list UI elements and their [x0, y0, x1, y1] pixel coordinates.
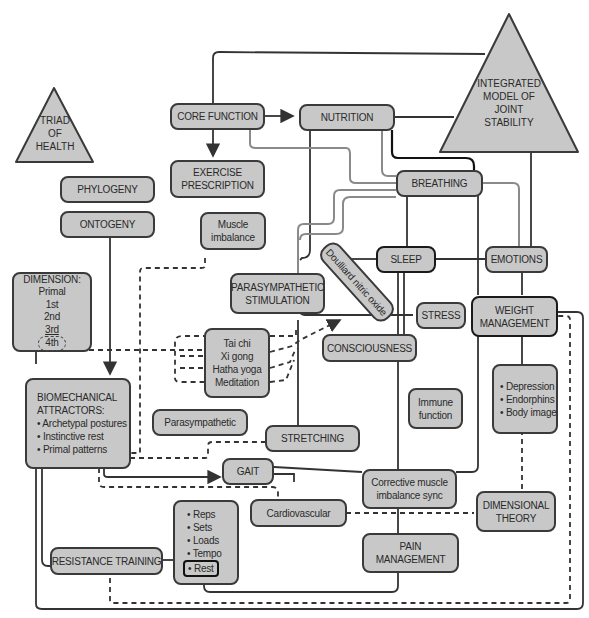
node-parasympathetic: Parasympathetic	[152, 409, 248, 436]
node-corrective-muscle-imbalance-sync: Corrective muscle imbalance sync	[362, 469, 457, 509]
health-model-diagram: TRIAD OF HEALTH INTEGRATED MODEL OF JOIN…	[0, 0, 589, 618]
node-weight-management: WEIGHT MANAGEMENT	[471, 296, 558, 337]
node-training-variables: • Reps • Sets • Loads • Tempo • Rest	[173, 500, 239, 585]
node-stress: STRESS	[416, 302, 466, 329]
rest-highlight: • Rest	[183, 560, 219, 577]
node-stretching: STRETCHING	[265, 425, 360, 452]
node-immune-function: Immune function	[408, 388, 463, 429]
node-cardiovascular: Cardiovascular	[250, 499, 347, 527]
integrated-model-label: INTEGRATED MODEL OF JOINT STABILITY	[470, 77, 548, 129]
node-ontogeny: ONTOGENY	[60, 211, 155, 238]
dimension-4th-highlight: 4th	[38, 336, 65, 351]
node-resistance-training: RESISTANCE TRAINING	[50, 547, 163, 575]
node-muscle-imbalance: Muscle imbalance	[200, 212, 266, 250]
node-phylogeny: PHYLOGENY	[60, 176, 155, 203]
node-mind-body-practices: Tai chi Xi gong Hatha yoga Meditation	[204, 328, 270, 398]
node-mood-factors: • Depression • Endorphins • Body image	[492, 364, 558, 434]
node-breathing: BREATHING	[396, 170, 483, 197]
triad-of-health-label: TRIAD OF HEALTH	[30, 114, 80, 153]
node-dimension: DIMENSION: Primal 1st 2nd 3rd 4th	[12, 272, 92, 352]
node-pain-management: PAIN MANAGEMENT	[362, 533, 459, 573]
node-parasympathetic-stimulation: PARASYMPATHETIC STIMULATION	[230, 273, 325, 314]
node-exercise-prescription: EXERCISE PRESCRIPTION	[170, 160, 265, 198]
node-core-function: CORE FUNCTION	[170, 103, 265, 130]
node-consciousness: CONSCIOUSNESS	[322, 334, 417, 362]
node-emotions: EMOTIONS	[485, 246, 548, 273]
node-gait: GAIT	[222, 458, 274, 485]
node-sleep: SLEEP	[376, 246, 436, 273]
node-dimensional-theory: DIMENSIONAL THEORY	[476, 491, 556, 532]
node-nutrition: NUTRITION	[299, 104, 395, 131]
node-biomechanical-attractors: BIOMECHANICAL ATTRACTORS: • Archetypal p…	[25, 378, 131, 469]
